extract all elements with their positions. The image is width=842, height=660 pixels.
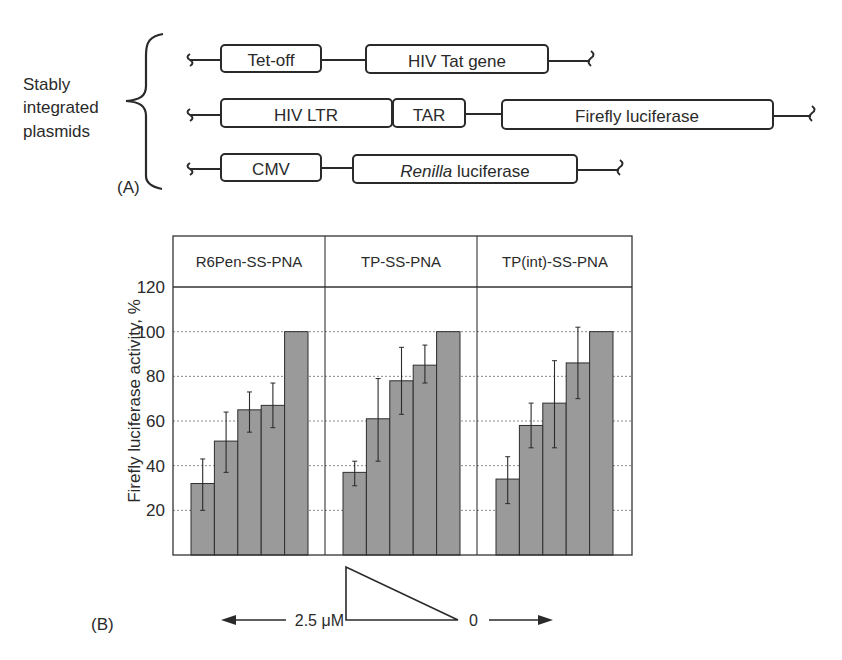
bar	[437, 332, 460, 555]
facet-header-r6pen: R6Pen-SS-PNA	[196, 253, 303, 270]
arrow-left-icon	[221, 615, 236, 625]
arrow-right-icon	[538, 615, 553, 625]
concentration-high-label: 2.5 μM	[295, 612, 344, 629]
facet-header-tp-int: TP(int)-SS-PNA	[502, 253, 608, 270]
bar-group	[496, 327, 613, 555]
facet-header-tp: TP-SS-PNA	[361, 253, 441, 270]
panel-b-label: (B)	[91, 615, 114, 634]
dna-break-icon	[810, 106, 815, 121]
concentration-low-label: 0	[469, 612, 478, 629]
element-label-renilla-luciferase: Renilla luciferase	[400, 162, 529, 181]
group-label-line-3: plasmids	[23, 122, 90, 141]
concentration-gradient	[226, 567, 545, 620]
dna-break-icon	[589, 51, 594, 66]
y-tick-label: 60	[146, 412, 165, 431]
element-label-firefly-luciferase: Firefly luciferase	[575, 107, 699, 126]
group-label-line-2: integrated	[23, 98, 99, 117]
element-label-tet-off: Tet-off	[248, 51, 295, 70]
y-tick-label: 20	[146, 501, 165, 520]
bar	[590, 332, 613, 555]
dna-break-icon	[618, 160, 623, 175]
panel-a: (A) Stably integrated plasmids Tet-off H…	[23, 34, 815, 197]
y-tick-label: 80	[146, 367, 165, 386]
bar	[285, 332, 308, 555]
brace-icon	[126, 34, 163, 189]
bars	[191, 327, 613, 555]
panel-a-label: (A)	[117, 178, 140, 197]
element-label-tar: TAR	[413, 106, 446, 125]
y-tick-label: 100	[137, 323, 165, 342]
y-tick-label: 40	[146, 457, 165, 476]
group-label-line-1: Stably	[23, 75, 71, 94]
bar-group	[343, 332, 460, 555]
figure: (A) Stably integrated plasmids Tet-off H…	[0, 0, 842, 660]
panel-b: Firefly luciferase activity, % 204060801…	[91, 236, 632, 634]
element-label-hiv-ltr: HIV LTR	[274, 106, 338, 125]
y-tick-label: 120	[137, 278, 165, 297]
bar	[413, 365, 436, 555]
luciferase-suffix: luciferase	[452, 162, 529, 181]
element-label-cmv: CMV	[252, 160, 290, 179]
bar-group	[191, 332, 308, 555]
element-label-hiv-tat-gene: HIV Tat gene	[408, 52, 506, 71]
renilla-italic: Renilla	[400, 162, 452, 181]
gradient-triangle-icon	[346, 567, 458, 620]
